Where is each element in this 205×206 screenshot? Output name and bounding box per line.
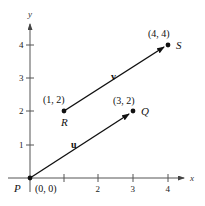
- point-r-name: R: [60, 116, 68, 128]
- point-s-name: S: [176, 39, 182, 51]
- point-r: (1, 2) R: [43, 94, 68, 128]
- vector-v-label: v: [111, 71, 116, 82]
- y-tick-label-1: 1: [19, 140, 24, 150]
- point-q-coords: (3, 2): [113, 95, 135, 107]
- point-p-coords: (0, 0): [35, 183, 57, 195]
- point-p-name: P: [13, 182, 21, 194]
- point-s: (4, 4) S: [148, 28, 182, 51]
- point-s-coords: (4, 4): [148, 28, 170, 40]
- x-axis-label: x: [189, 173, 194, 183]
- x-tick-label-4: 4: [166, 184, 171, 194]
- vector-diagram: x 2 3 4 y 1 2 3 4 u v P (0, 0) (3: [0, 0, 205, 206]
- point-r-coords: (1, 2): [43, 94, 65, 106]
- vector-u-label: u: [71, 139, 77, 150]
- x-tick-label-2: 2: [96, 184, 101, 194]
- y-tick-label-3: 3: [19, 73, 24, 83]
- y-axis: y 1 2 3 4: [19, 9, 34, 192]
- y-axis-label: y: [27, 9, 32, 19]
- point-p: P (0, 0): [13, 176, 57, 195]
- y-tick-label-2: 2: [19, 106, 24, 116]
- point-q: (3, 2) Q: [113, 95, 149, 117]
- vector-u: u: [30, 114, 129, 178]
- point-q-name: Q: [141, 105, 149, 117]
- x-tick-label-3: 3: [131, 184, 136, 194]
- y-tick-label-4: 4: [19, 40, 24, 50]
